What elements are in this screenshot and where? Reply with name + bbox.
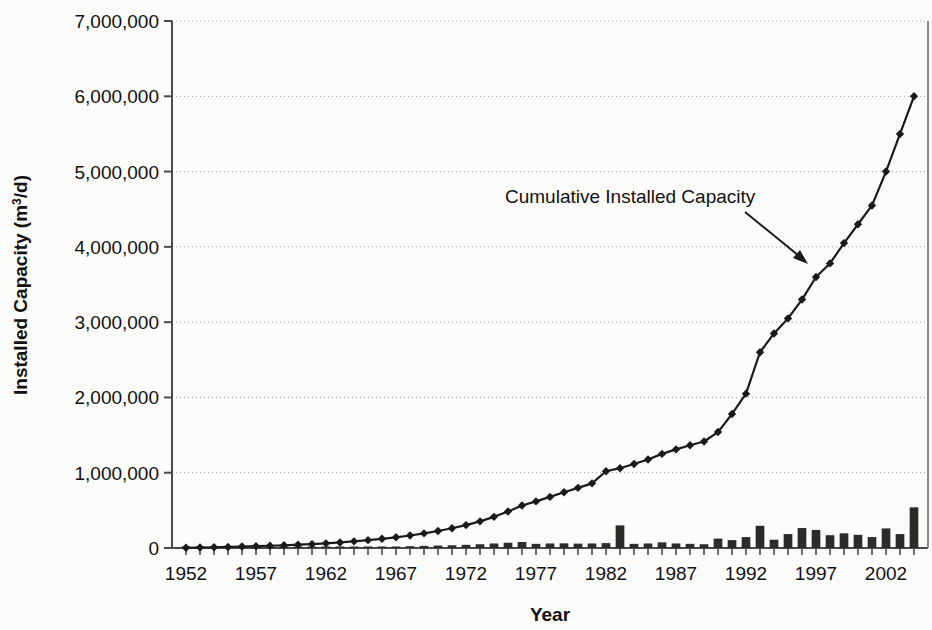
y-axis-title: Installed Capacity (m3/d) [10,175,31,395]
x-tick-label: 2002 [865,563,907,584]
bar [840,533,849,548]
svg-text:Installed Capacity (m3/d): Installed Capacity (m3/d) [10,175,31,395]
y-tick-label: 3,000,000 [74,312,159,333]
bar [868,537,877,548]
bar [490,543,499,548]
bar [714,539,723,548]
bar [644,543,653,548]
x-tick-label: 1962 [305,563,347,584]
chart-figure: 01,000,0002,000,0003,000,0004,000,0005,0… [0,0,932,630]
bar [518,542,527,548]
bar [532,544,541,548]
y-tick-label: 5,000,000 [74,162,159,183]
x-tick-label: 1967 [375,563,417,584]
bar [658,542,667,548]
bar [784,534,793,548]
bar [434,546,443,548]
bar [756,526,765,548]
y-tick-label: 7,000,000 [74,11,159,32]
bar [448,545,457,548]
bar [574,544,583,548]
y-tick-label: 6,000,000 [74,86,159,107]
annotation-label: Cumulative Installed Capacity [505,186,756,207]
y-axis-title-prefix: Installed Capacity (m [10,205,31,395]
bar [728,540,737,548]
bar [392,546,401,548]
bar [700,544,709,548]
bar [504,543,513,548]
x-axis-title: Year [530,604,571,625]
bar [798,528,807,548]
y-tick-label: 4,000,000 [74,237,159,258]
bar [420,546,429,548]
bar [336,547,345,549]
y-tick-label: 1,000,000 [74,463,159,484]
x-tick-label: 1982 [585,563,627,584]
x-tick-label: 1987 [655,563,697,584]
bar [616,525,625,548]
y-tick-label: 2,000,000 [74,387,159,408]
bar [378,547,387,549]
bar [672,543,681,548]
bar [406,546,415,548]
bar [476,544,485,548]
bar [896,534,905,548]
cumulative-installed-capacity-chart: 01,000,0002,000,0003,000,0004,000,0005,0… [0,0,932,630]
x-tick-label: 1957 [235,563,277,584]
bar [462,545,471,548]
bar [350,547,359,549]
bar [882,528,891,548]
x-tick-label: 1997 [795,563,837,584]
y-axis-title-suffix: /d) [10,175,31,198]
bar [686,544,695,548]
bar [546,543,555,548]
y-tick-label: 0 [148,538,159,559]
bar [560,543,569,548]
bar [910,507,919,548]
bar [630,544,639,548]
bar [770,540,779,548]
bar [854,535,863,548]
bar [602,543,611,548]
x-tick-label: 1977 [515,563,557,584]
x-tick-label: 1992 [725,563,767,584]
x-tick-label: 1972 [445,563,487,584]
x-tick-label: 1952 [165,563,207,584]
bar [588,543,597,548]
bar [364,547,373,549]
bar [826,535,835,548]
bar [812,530,821,548]
bar [742,537,751,548]
